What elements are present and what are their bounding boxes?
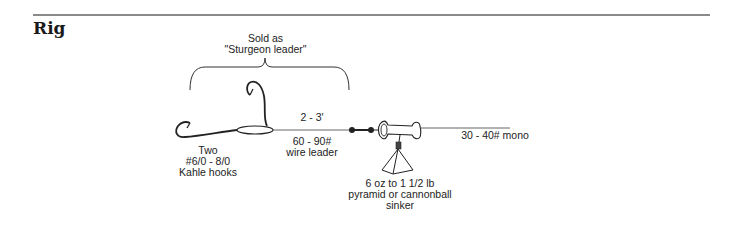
crimp-sleeve <box>237 126 273 134</box>
bracket-label: Sold as "Sturgeon leader" <box>218 33 313 55</box>
pyramid-sinker <box>382 149 413 174</box>
swivel-bead <box>349 127 355 133</box>
sturgeon-leader-bracket <box>190 58 349 90</box>
mainline-label: 30 - 40# mono <box>450 130 540 141</box>
upper-hook-icon <box>247 82 267 126</box>
leader-strength-label: 60 - 90# wire leader <box>277 136 347 158</box>
leader-length-label: 2 - 3' <box>282 112 342 123</box>
hook-label: Two #6/0 - 8/0 Kahle hooks <box>168 145 248 178</box>
sinker-label: 6 oz to 1 1/2 lb pyramid or cannonball s… <box>345 178 455 211</box>
lower-hook-icon <box>176 122 237 137</box>
